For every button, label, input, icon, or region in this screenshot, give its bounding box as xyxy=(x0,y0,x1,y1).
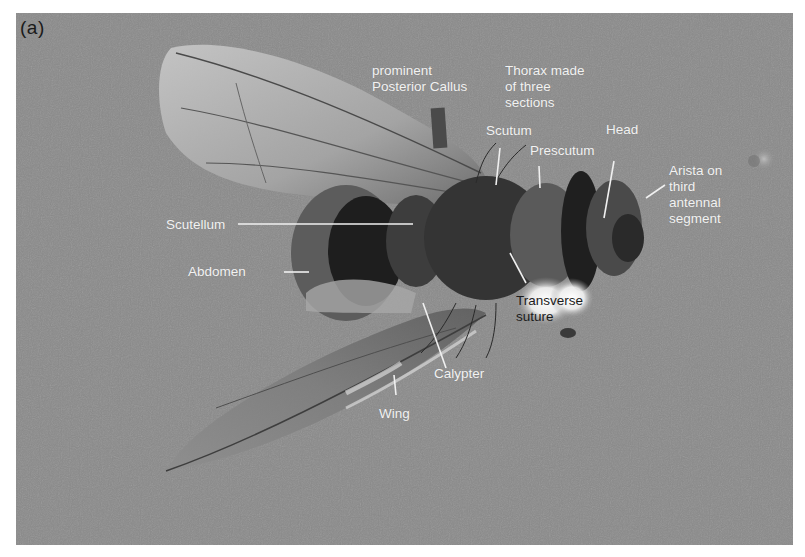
label-abdomen: Abdomen xyxy=(188,264,246,280)
panel-label: (a) xyxy=(20,17,45,39)
label-posterior-callus: prominent Posterior Callus xyxy=(372,63,467,95)
label-transverse-suture: Transverse suture xyxy=(516,293,583,325)
label-arista: Arista on third antennal segment xyxy=(669,163,722,227)
fly-anatomy-figure: (a) prominent Posterior Callus Thorax ma… xyxy=(16,13,793,545)
label-head: Head xyxy=(606,122,638,138)
label-calypter: Calypter xyxy=(434,366,484,382)
label-thorax: Thorax made of three sections xyxy=(505,63,585,111)
label-wing: Wing xyxy=(379,406,410,422)
label-scutum: Scutum xyxy=(486,123,532,139)
label-scutellum: Scutellum xyxy=(166,217,225,233)
label-prescutum: Prescutum xyxy=(530,143,595,159)
